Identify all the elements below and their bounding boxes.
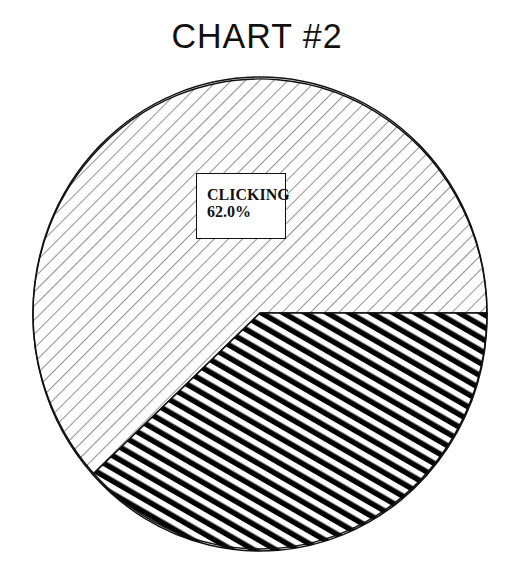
slice-label-box: CLICKING 62.0% bbox=[196, 173, 286, 239]
pie-chart bbox=[0, 0, 514, 585]
slice-label-percent: 62.0% bbox=[207, 203, 285, 220]
slice-label-name: CLICKING bbox=[207, 186, 285, 203]
